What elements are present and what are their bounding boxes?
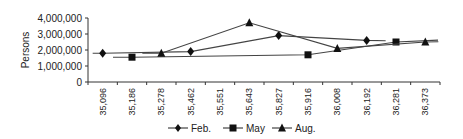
x-tick-label: 36,192 [362, 88, 372, 116]
legend-label: Aug. [295, 123, 316, 134]
legend-item: May [223, 123, 265, 134]
series-layer [93, 18, 439, 60]
x-tick-label: 35,462 [186, 88, 196, 116]
x-tick-label: 35,186 [127, 88, 137, 116]
x-tick-label: 35,551 [215, 88, 225, 116]
y-tick-label: 2,000,000 [38, 45, 83, 56]
y-axis-title: Persons [20, 32, 31, 69]
chart-canvas: Persons 01,000,0002,000,0003,000,0004,00… [0, 0, 463, 139]
y-axis: 01,000,0002,000,0003,000,0004,000,000 [38, 13, 89, 88]
x-axis: 35,09635,18635,27835,46235,55135,64335,8… [88, 82, 440, 116]
line-chart: Persons 01,000,0002,000,0003,000,0004,00… [0, 0, 463, 139]
legend: Feb.MayAug. [168, 123, 316, 134]
x-tick-label: 36,008 [332, 88, 342, 116]
legend-item: Aug. [272, 123, 316, 134]
y-tick-label: 1,000,000 [38, 61, 83, 72]
diamond-icon [175, 124, 181, 132]
x-tick-label: 36,281 [391, 88, 401, 116]
y-tick-label: 4,000,000 [38, 13, 83, 24]
legend-label: Feb. [191, 123, 211, 134]
x-tick-label: 35,827 [274, 88, 284, 116]
y-tick-label: 3,000,000 [38, 29, 83, 40]
series-aug [142, 18, 438, 56]
y-tick-label: 0 [76, 77, 82, 88]
x-tick-label: 35,643 [244, 88, 254, 116]
square-icon [230, 125, 237, 132]
x-tick-label: 35,096 [98, 88, 108, 116]
x-tick-label: 35,916 [303, 88, 313, 116]
x-tick-label: 35,278 [156, 88, 166, 116]
x-tick-label: 36,373 [420, 88, 430, 116]
legend-label: May [246, 123, 265, 134]
legend-item: Feb. [168, 123, 211, 134]
series-feb [93, 31, 386, 58]
y-axis-label: Persons [20, 32, 31, 69]
